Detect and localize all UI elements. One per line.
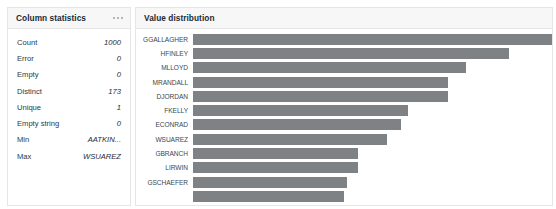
distribution-bar-label: GGALLAGHER bbox=[136, 36, 193, 43]
distribution-bar-fill bbox=[193, 134, 387, 145]
statistic-row: Unique1 bbox=[8, 99, 130, 115]
column-statistics-title: Column statistics bbox=[8, 13, 86, 23]
ellipsis-dot bbox=[113, 17, 115, 19]
column-statistics-header: Column statistics bbox=[8, 8, 130, 29]
statistic-label: Distinct bbox=[17, 87, 42, 96]
distribution-bar-fill bbox=[193, 148, 358, 159]
distribution-bar-track bbox=[193, 77, 552, 88]
distribution-bar-fill bbox=[193, 77, 448, 88]
column-statistics-list: Count1000Error0Empty0Distinct173Unique1E… bbox=[8, 29, 130, 164]
distribution-bar-label: ECONRAD bbox=[136, 121, 193, 128]
statistic-label: Unique bbox=[17, 103, 41, 112]
distribution-bar-label: LIRWIN bbox=[136, 164, 193, 171]
statistic-value: WSUAREZ bbox=[83, 152, 121, 161]
statistic-row: MinAATKIN... bbox=[8, 132, 130, 148]
distribution-bar-row[interactable]: GSCHAEFER bbox=[136, 175, 552, 189]
distribution-bar-label: WSUAREZ bbox=[136, 136, 193, 143]
distribution-bar-track bbox=[193, 105, 552, 116]
statistic-value: 0 bbox=[117, 119, 121, 128]
distribution-bar-label: GSCHAEFER bbox=[136, 179, 193, 186]
distribution-bar-fill bbox=[193, 191, 344, 202]
distribution-bar-fill bbox=[193, 62, 466, 73]
distribution-bar-track bbox=[193, 191, 552, 202]
distribution-bar-fill bbox=[193, 177, 347, 188]
value-distribution-chart: GGALLAGHERHFINLEYMLLOYDMRANDALLDJORDANFK… bbox=[136, 29, 552, 205]
distribution-bar-fill bbox=[193, 48, 509, 59]
distribution-bar-row[interactable]: MRANDALL bbox=[136, 75, 552, 89]
distribution-bar-fill bbox=[193, 119, 401, 130]
distribution-bar-label: MRANDALL bbox=[136, 79, 193, 86]
statistic-value: 0 bbox=[117, 70, 121, 79]
distribution-bar-track bbox=[193, 91, 552, 102]
statistic-row: Count1000 bbox=[8, 34, 130, 50]
statistic-label: Empty string bbox=[17, 119, 59, 128]
statistic-label: Max bbox=[17, 152, 31, 161]
distribution-bar-fill bbox=[193, 162, 358, 173]
statistic-row: Error0 bbox=[8, 50, 130, 66]
statistic-label: Empty bbox=[17, 70, 39, 79]
distribution-bar-track bbox=[193, 148, 552, 159]
statistic-row: Empty0 bbox=[8, 67, 130, 83]
distribution-bar-label: DJORDAN bbox=[136, 93, 193, 100]
statistic-label: Count bbox=[17, 38, 37, 47]
value-distribution-header: Value distribution bbox=[136, 8, 552, 29]
ellipsis-dot bbox=[121, 17, 123, 19]
statistic-row: Empty string0 bbox=[8, 115, 130, 131]
distribution-bar-track bbox=[193, 34, 552, 45]
ellipsis-icon[interactable] bbox=[113, 17, 123, 19]
distribution-bar-row[interactable]: MLLOYD bbox=[136, 61, 552, 75]
distribution-bar-fill bbox=[193, 34, 552, 45]
distribution-bar-label: HFINLEY bbox=[136, 50, 193, 57]
statistic-value: 1 bbox=[117, 103, 121, 112]
statistic-label: Error bbox=[17, 54, 34, 63]
ellipsis-dot bbox=[117, 17, 119, 19]
statistic-row: MaxWSUAREZ bbox=[8, 148, 130, 164]
distribution-bar-track bbox=[193, 48, 552, 59]
distribution-bar-fill bbox=[193, 105, 408, 116]
statistic-value: 1000 bbox=[104, 38, 121, 47]
distribution-bar-label: MLLOYD bbox=[136, 64, 193, 71]
distribution-bar-label: GBRANCH bbox=[136, 150, 193, 157]
distribution-bar-track bbox=[193, 62, 552, 73]
statistic-row: Distinct173 bbox=[8, 83, 130, 99]
column-profile-view: Summary Column statistics Count1000Error… bbox=[0, 0, 556, 209]
value-distribution-panel: Value distribution GGALLAGHERHFINLEYMLLO… bbox=[135, 7, 553, 206]
statistic-value: 173 bbox=[108, 87, 121, 96]
distribution-bar-row[interactable] bbox=[136, 189, 552, 203]
distribution-bar-row[interactable]: FKELLY bbox=[136, 103, 552, 117]
statistic-label: Min bbox=[17, 135, 29, 144]
column-statistics-panel: Column statistics Count1000Error0Empty0D… bbox=[7, 7, 131, 206]
distribution-bar-row[interactable]: HFINLEY bbox=[136, 46, 552, 60]
statistic-value: 0 bbox=[117, 54, 121, 63]
distribution-bar-track bbox=[193, 119, 552, 130]
statistic-value: AATKIN... bbox=[88, 135, 121, 144]
value-distribution-title: Value distribution bbox=[136, 13, 215, 23]
distribution-bar-row[interactable]: GBRANCH bbox=[136, 146, 552, 160]
distribution-bar-row[interactable]: ECONRAD bbox=[136, 118, 552, 132]
distribution-bar-row[interactable]: LIRWIN bbox=[136, 161, 552, 175]
distribution-bar-track bbox=[193, 162, 552, 173]
distribution-bar-row[interactable]: GGALLAGHER bbox=[136, 32, 552, 46]
distribution-bar-row[interactable]: WSUAREZ bbox=[136, 132, 552, 146]
distribution-bar-row[interactable]: DJORDAN bbox=[136, 89, 552, 103]
distribution-bar-track bbox=[193, 177, 552, 188]
distribution-bar-fill bbox=[193, 91, 448, 102]
distribution-bar-track bbox=[193, 134, 552, 145]
distribution-bar-label: FKELLY bbox=[136, 107, 193, 114]
